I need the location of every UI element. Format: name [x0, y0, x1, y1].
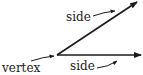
- vertex-label: vertex: [1, 61, 41, 75]
- side-bottom-label: side: [70, 59, 95, 73]
- angle-diagram: side vertex side: [0, 0, 143, 75]
- side-bottom-pointer: [97, 61, 117, 68]
- side-top-pointer: [93, 11, 115, 16]
- side-top-label: side: [66, 10, 91, 24]
